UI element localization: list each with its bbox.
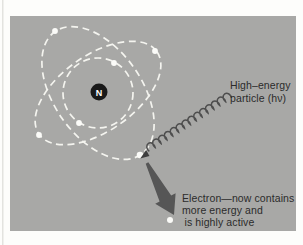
electron-dot bbox=[152, 48, 158, 54]
electron-label-line-1: Electron—now contains bbox=[182, 192, 294, 204]
high-energy-label-line-1: High–energy bbox=[230, 79, 291, 91]
high-energy-label-line-2: particle (hν) bbox=[230, 92, 286, 104]
electron-label-line-2: more energy and bbox=[182, 204, 263, 216]
electron-label-line-3: is highly active bbox=[185, 216, 255, 228]
page-edge-line bbox=[2, 0, 4, 245]
nucleus-label: N bbox=[96, 88, 103, 98]
atom-diagram-canvas: N High–energy particle (hν) Electron—now… bbox=[0, 0, 303, 245]
ejected-electron-dot bbox=[167, 217, 173, 223]
electron-dot bbox=[36, 132, 42, 138]
electron-dot bbox=[52, 28, 58, 34]
electron-dot bbox=[111, 60, 117, 66]
atom-diagram-figure: N High–energy particle (hν) Electron—now… bbox=[0, 0, 303, 245]
electron-dot bbox=[76, 120, 82, 126]
